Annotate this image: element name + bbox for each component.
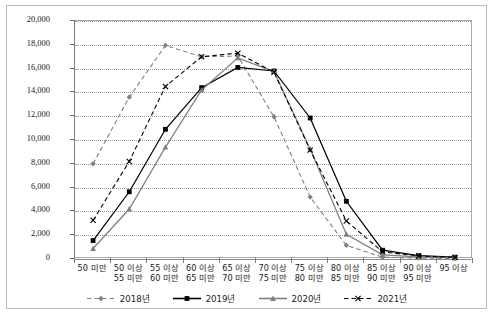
data-point-marker-diamond: [90, 161, 95, 166]
x-axis-category-label: 95 이상: [430, 263, 478, 273]
legend-swatch: [86, 294, 116, 303]
series-line: [93, 67, 455, 257]
legend-label: 2021년: [377, 292, 407, 304]
legend-item-2018년[interactable]: 2018년: [86, 292, 150, 304]
y-axis-tick-label: 6,000: [31, 182, 50, 191]
y-axis-tick-mark: [70, 210, 74, 211]
y-axis-tick-mark: [70, 163, 74, 164]
gridline: [75, 259, 471, 260]
data-point-marker-x: [344, 218, 349, 223]
chart-legend: 2018년2019년2020년2021년: [7, 292, 486, 304]
legend-label: 2020년: [292, 292, 322, 304]
y-axis-tick-label: 2,000: [31, 229, 50, 238]
legend-swatch: [172, 294, 202, 303]
series-layer: [75, 21, 473, 259]
data-point-marker-square: [235, 65, 240, 70]
legend-item-2021년[interactable]: 2021년: [343, 292, 407, 304]
legend-item-2019년[interactable]: 2019년: [172, 292, 236, 304]
y-axis-tick-mark: [70, 44, 74, 45]
data-point-marker-square: [127, 189, 132, 194]
y-axis-tick-mark: [70, 68, 74, 69]
series-2018년: [90, 43, 457, 262]
series-line: [93, 45, 455, 258]
y-axis-tick-mark: [70, 20, 74, 21]
data-point-marker-square: [344, 199, 349, 204]
y-axis-tick-label: 20,000: [27, 15, 50, 24]
y-axis-line: [74, 20, 75, 258]
y-axis-tick-mark: [70, 91, 74, 92]
series-2020년: [90, 55, 458, 260]
y-axis-tick-label: 4,000: [31, 205, 50, 214]
data-point-marker-triangle: [126, 206, 132, 211]
y-axis-tick-label: 16,000: [27, 63, 50, 72]
series-line: [93, 53, 455, 257]
series-2019년: [91, 65, 458, 260]
legend-label: 2019년: [206, 292, 236, 304]
y-axis-tick-label: 0: [46, 253, 50, 262]
y-axis-tick-label: 18,000: [27, 39, 50, 48]
plot-area: [74, 20, 472, 258]
data-point-marker-diamond: [271, 114, 276, 119]
legend-item-2020년[interactable]: 2020년: [258, 292, 322, 304]
data-point-marker-square: [184, 296, 189, 301]
data-point-marker-x: [163, 84, 168, 89]
legend-label: 2018년: [120, 292, 150, 304]
y-axis-tick-label: 14,000: [27, 86, 50, 95]
y-axis-tick-label: 10,000: [27, 134, 50, 143]
y-axis-tick-mark: [70, 234, 74, 235]
data-point-marker-diamond: [307, 194, 312, 199]
y-axis-tick-mark: [70, 187, 74, 188]
x-axis-label-line: 95 미만: [394, 273, 442, 283]
data-point-marker-square: [163, 127, 168, 132]
x-axis-label-line: 95 이상: [430, 263, 478, 273]
data-point-marker-square: [308, 116, 313, 121]
y-axis-tick-mark: [70, 115, 74, 116]
series-2021년: [90, 51, 457, 261]
legend-swatch: [258, 294, 288, 303]
data-point-marker-x: [90, 218, 95, 223]
y-axis-tick-mark: [70, 139, 74, 140]
series-line: [93, 58, 455, 258]
y-axis-tick-label: 12,000: [27, 110, 50, 119]
y-axis-tick-label: 8,000: [31, 158, 50, 167]
data-point-marker-square: [91, 238, 96, 243]
chart-figure: 02,0004,0006,0008,00010,00012,00014,0001…: [6, 5, 487, 309]
data-point-marker-x: [127, 159, 132, 164]
legend-swatch: [343, 294, 373, 303]
data-point-marker-diamond: [98, 295, 103, 300]
data-point-marker-triangle: [343, 231, 349, 236]
